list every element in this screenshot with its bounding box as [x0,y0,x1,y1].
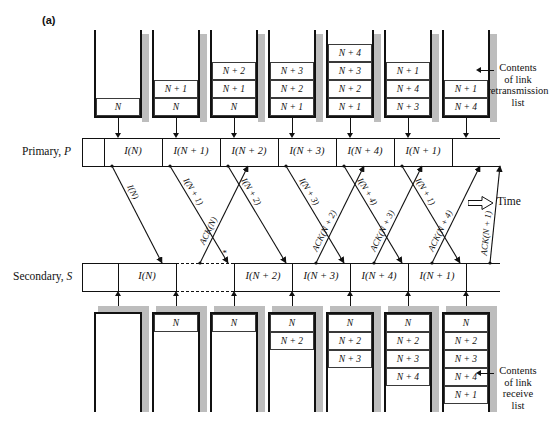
connector-arrowhead [173,291,179,296]
frame-label: I(N + 3) [292,270,350,281]
message-line [200,166,248,263]
primary-axis-symbol: P [64,145,71,157]
uplink-message: ACK(N + 4) [425,166,480,265]
downlink-message: I(N + 4) [342,164,402,263]
timeline-rail [176,263,234,264]
connector-arrowhead [405,133,411,138]
connector-arrowhead [289,291,295,296]
connector-line [292,296,293,306]
callout-line: Contents [487,62,549,74]
retransmission-list-entry: N + 1 [270,98,314,116]
downlink-message: I(N + 3) [284,164,344,263]
retransmission-list-entry: N + 1 [212,80,256,98]
connector-arrowhead [347,133,353,138]
frame-label: I(N + 1) [162,145,220,156]
uplink-message: ACK(N) [197,166,248,265]
timeline-rail [82,138,500,139]
stack-wall-right [314,30,316,118]
message-label: ACK(N) [197,215,219,247]
frame-label: I(N + 2) [220,145,278,156]
retransmission-list-entry: N + 2 [270,80,314,98]
retransmission-list-entry: N + 1 [444,80,488,98]
retransmission-list-entry: N + 3 [328,62,372,80]
stack-shadow [432,306,439,412]
connector-line [350,118,351,133]
time-legend-label: Time [497,195,521,207]
message-label: I(N + 3) [297,175,322,207]
retransmission-list-entry: N + 1 [328,98,372,116]
receive-list-entry: N + 2 [328,332,372,350]
retransmission-list-entry: N [154,98,198,116]
receive-list-entry: N + 4 [444,368,488,386]
receive-list-entry: N [386,314,430,332]
retransmission-callout-text: Contentsof linkretransmissionlist [487,62,549,108]
callout-line: list [487,97,549,109]
receive-list-entry: N + 3 [386,350,430,368]
lost-frame-marker: * [222,248,227,258]
retransmission-list-entry: N + 3 [270,62,314,80]
secondary-axis-label: Secondary, S [13,270,72,282]
downlink-message: I(N) [110,164,162,263]
message-line [402,166,460,263]
timeline-divider [82,138,83,166]
stack-wall-right [256,30,258,118]
connector-line [176,118,177,133]
retransmission-list-entry: N + 2 [212,62,256,80]
callout-line: Contents [487,365,549,377]
uplink-message: ACK(N + 1) [479,166,500,265]
stack-shadow [200,34,207,122]
receive-list-entry: N + 3 [444,350,488,368]
connector-arrowhead [231,291,237,296]
timeline-divider [82,263,83,291]
stack-shadow [432,34,439,122]
retransmission-list-entry: N + 4 [386,80,430,98]
frame-label: I(N + 4) [336,145,394,156]
stack-shadow [374,306,381,412]
frame-label: I(N) [104,145,162,156]
stack-shadow [258,306,265,412]
stack-wall-right [372,30,374,118]
stack-shadow [142,306,149,412]
stack-wall-right [198,30,200,118]
connector-line [234,296,235,306]
timeline-rail [82,166,500,167]
downlink-message: I(N + 1) [400,164,460,263]
stack-wall-right [198,312,200,412]
receive-list-entry: N [444,314,488,332]
callout-line: receive [487,388,549,400]
message-label: I(N + 4) [355,175,380,207]
timeline-rail [234,263,500,264]
message-label: ACK(N + 1) [479,210,494,256]
timeline-divider [452,138,453,166]
stack-wall-top [94,312,142,314]
connector-line [466,118,467,133]
stack-wall-right [372,312,374,412]
message-line [432,166,480,263]
message-label: ACK(N + 3) [367,209,396,254]
secondary-axis-name: Secondary, [13,270,64,282]
retransmission-list-entry: N [212,98,256,116]
retransmission-list-entry: N + 4 [444,98,488,116]
receive-list-entry: N + 3 [328,350,372,368]
retransmission-list-entry: N + 1 [386,62,430,80]
stack-wall-left [94,312,96,412]
secondary-axis-symbol: S [67,270,73,282]
message-label: I(N + 1) [413,175,438,207]
retransmission-list-entry: N + 2 [328,80,372,98]
connector-arrowhead [289,133,295,138]
receive-list-entry: N [270,314,314,332]
figure-tag: (a) [42,14,55,26]
stack-wall-right [140,30,142,118]
connector-arrowhead [463,133,469,138]
stack-wall-right [314,312,316,412]
timeline-rail [234,291,500,292]
stack-shadow [374,34,381,122]
message-line [170,166,228,263]
connector-line [234,118,235,133]
message-line [228,166,286,263]
message-label: ACK(N + 4) [425,209,454,254]
stack-wall-right [430,312,432,412]
receive-list-entry: N + 4 [386,368,430,386]
downlink-message: I(N + 2) [226,164,286,263]
message-line [344,166,402,263]
